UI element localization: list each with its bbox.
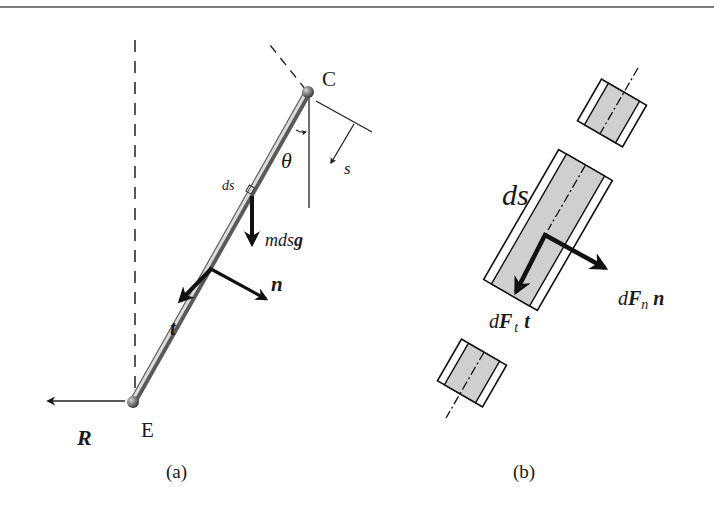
caption-b: (b) bbox=[513, 461, 535, 483]
s-axis-line bbox=[316, 101, 372, 132]
panel-b: ds dFnn dFtt (b) bbox=[423, 55, 664, 483]
central-rod-element bbox=[484, 150, 613, 311]
label-weight: mdsg bbox=[265, 230, 303, 250]
point-c-ball bbox=[302, 86, 314, 98]
caption-a: (a) bbox=[166, 461, 187, 483]
lower-rod-segment bbox=[423, 339, 506, 431]
label-reaction: R bbox=[76, 425, 92, 450]
label-tangent-force: dFtt bbox=[489, 310, 531, 335]
label-normal-force: dFnn bbox=[618, 287, 664, 312]
label-ds-a: ds bbox=[222, 178, 235, 193]
panel-a: C E θ s ds mdsg n t R (a) bbox=[48, 40, 372, 483]
label-ds-b: ds bbox=[502, 178, 529, 211]
label-weight-scalar: mds bbox=[265, 230, 294, 250]
label-weight-vector: g bbox=[293, 230, 303, 250]
diagram-canvas: C E θ s ds mdsg n t R (a) bbox=[0, 0, 714, 515]
point-e-ball bbox=[127, 396, 139, 408]
rod-extension-dashed bbox=[266, 40, 306, 90]
theta-arc bbox=[296, 130, 306, 132]
s-arrow bbox=[331, 124, 354, 163]
upper-rod-segment bbox=[577, 55, 660, 147]
label-s: s bbox=[344, 159, 351, 178]
label-point-e: E bbox=[141, 418, 154, 442]
label-point-c: C bbox=[322, 67, 336, 91]
label-theta: θ bbox=[281, 148, 292, 173]
label-normal: n bbox=[271, 272, 283, 296]
normal-arrow bbox=[211, 269, 266, 299]
figure: C E θ s ds mdsg n t R (a) bbox=[0, 0, 714, 515]
